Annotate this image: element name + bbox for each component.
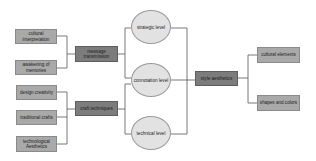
node-connotation-level: connotation level <box>131 63 171 97</box>
node-label: traditional crafts <box>20 115 52 120</box>
node-style-aesthetics: style aesthetics <box>195 71 238 86</box>
node-label: shapes and colors <box>260 100 297 105</box>
node-label: technological Aesthetics <box>17 139 56 149</box>
node-label: strategic level <box>137 25 165 30</box>
node-technological-aesthetics: technological Aesthetics <box>16 136 57 152</box>
node-traditional-crafts: traditional crafts <box>16 110 57 125</box>
node-cultural-interpretation: cultural interpretation <box>15 29 57 44</box>
node-cultural-elements: cultural elements <box>257 47 300 63</box>
node-label: craft techniques <box>80 106 112 111</box>
node-label: connotation level <box>134 78 168 83</box>
node-technical-level: technical level <box>131 116 171 150</box>
node-awakening-of-memories: awakening of memories <box>15 60 57 75</box>
node-design-creativity: design creativity <box>16 85 57 100</box>
node-label: cultural elements <box>261 52 296 57</box>
node-label: design creativity <box>20 90 53 95</box>
node-shapes-and-colors: shapes and colors <box>257 95 300 111</box>
node-message-transmission: message transmission <box>75 46 118 62</box>
node-label: style aesthetics <box>201 76 232 81</box>
node-strategic-level: strategic level <box>131 10 171 44</box>
node-label: awakening of memories <box>16 62 56 72</box>
node-craft-techniques: craft techniques <box>75 101 118 116</box>
node-label: message transmission <box>76 49 117 59</box>
node-label: technical level <box>137 131 166 136</box>
node-label: cultural interpretation <box>16 31 56 41</box>
